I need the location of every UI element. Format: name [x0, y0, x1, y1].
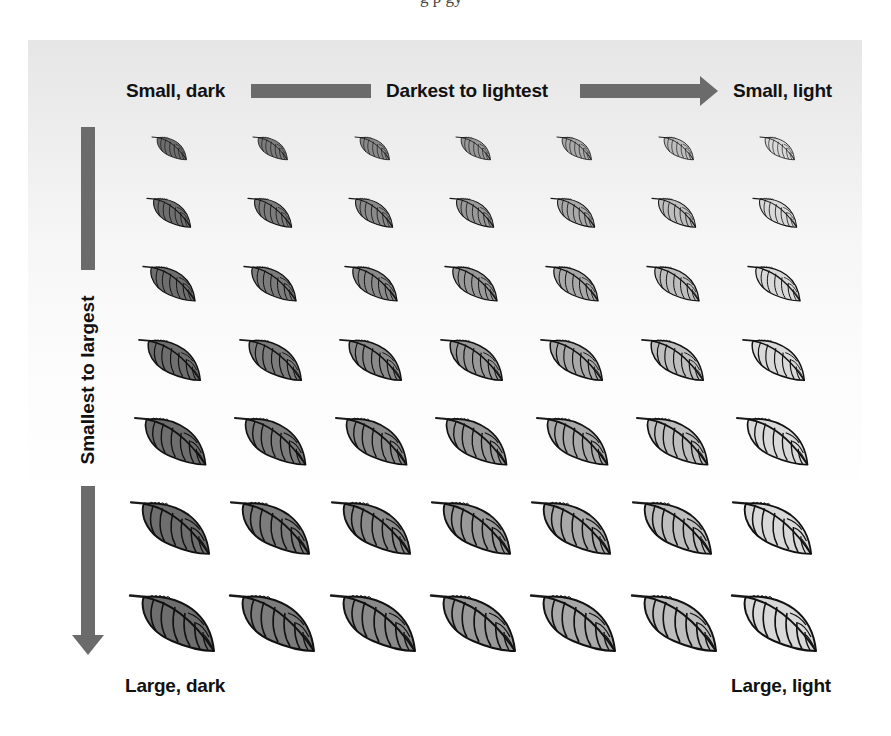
leaf-icon	[336, 416, 408, 468]
leaf-icon	[456, 136, 491, 161]
leaf-icon	[546, 265, 599, 303]
leaf-icon	[135, 416, 207, 468]
leaf-icon	[537, 416, 609, 468]
left-axis-label: Smallest to largest	[77, 285, 99, 475]
leaf-icon	[733, 500, 813, 558]
vertical-arrow-bar-top	[81, 127, 95, 270]
leaf-icon	[355, 136, 390, 161]
leaf-icon	[743, 338, 806, 383]
leaf-icon	[130, 593, 216, 655]
leaf-icon	[431, 593, 517, 655]
leaf-icon	[349, 197, 394, 229]
leaf-icon	[147, 197, 192, 229]
leaf-icon	[436, 416, 508, 468]
leaf-icon	[541, 338, 604, 383]
leaf-icon	[139, 338, 202, 383]
top-left-label: Small, dark	[126, 80, 225, 102]
leaf-icon	[253, 136, 288, 161]
leaf-icon	[230, 593, 316, 655]
leaf-icon	[340, 338, 403, 383]
cropped-page-text: g p gy	[420, 0, 891, 8]
vertical-arrow-bar-bottom	[81, 486, 95, 636]
leaf-icon	[732, 593, 818, 655]
leaf-icon	[143, 265, 196, 303]
top-right-label: Small, light	[733, 80, 832, 102]
leaf-icon	[244, 265, 297, 303]
leaf-icon	[737, 416, 809, 468]
leaf-icon	[240, 338, 303, 383]
leaf-icon	[633, 500, 713, 558]
leaf-icon	[642, 338, 705, 383]
arrow-right-icon	[700, 76, 718, 106]
top-axis-label: Darkest to lightest	[386, 80, 548, 102]
leaf-icon	[131, 500, 211, 558]
leaf-icon	[748, 265, 801, 303]
leaf-icon	[652, 197, 697, 229]
arrow-down-icon	[72, 635, 104, 655]
leaf-icon	[557, 136, 592, 161]
bottom-left-label: Large, dark	[125, 675, 225, 697]
leaf-icon	[231, 500, 311, 558]
leaf-icon	[551, 197, 596, 229]
bottom-right-label: Large, light	[731, 675, 831, 697]
leaf-icon	[432, 500, 512, 558]
leaf-icon	[235, 416, 307, 468]
horizontal-arrow-bar-right	[580, 84, 701, 98]
leaf-icon	[248, 197, 293, 229]
leaf-icon	[637, 416, 709, 468]
leaf-icon	[531, 593, 617, 655]
leaf-icon	[647, 265, 700, 303]
leaf-icon	[450, 197, 495, 229]
leaf-icon	[753, 197, 798, 229]
leaf-icon	[659, 136, 694, 161]
leaf-icon	[445, 265, 498, 303]
leaf-icon	[441, 338, 504, 383]
leaf-icon	[331, 593, 417, 655]
leaf-icon	[760, 136, 795, 161]
leaf-icon	[345, 265, 398, 303]
leaf-icon	[152, 136, 187, 161]
leaf-icon	[532, 500, 612, 558]
horizontal-arrow-bar-left	[251, 84, 371, 98]
leaf-icon	[332, 500, 412, 558]
leaf-icon	[632, 593, 718, 655]
